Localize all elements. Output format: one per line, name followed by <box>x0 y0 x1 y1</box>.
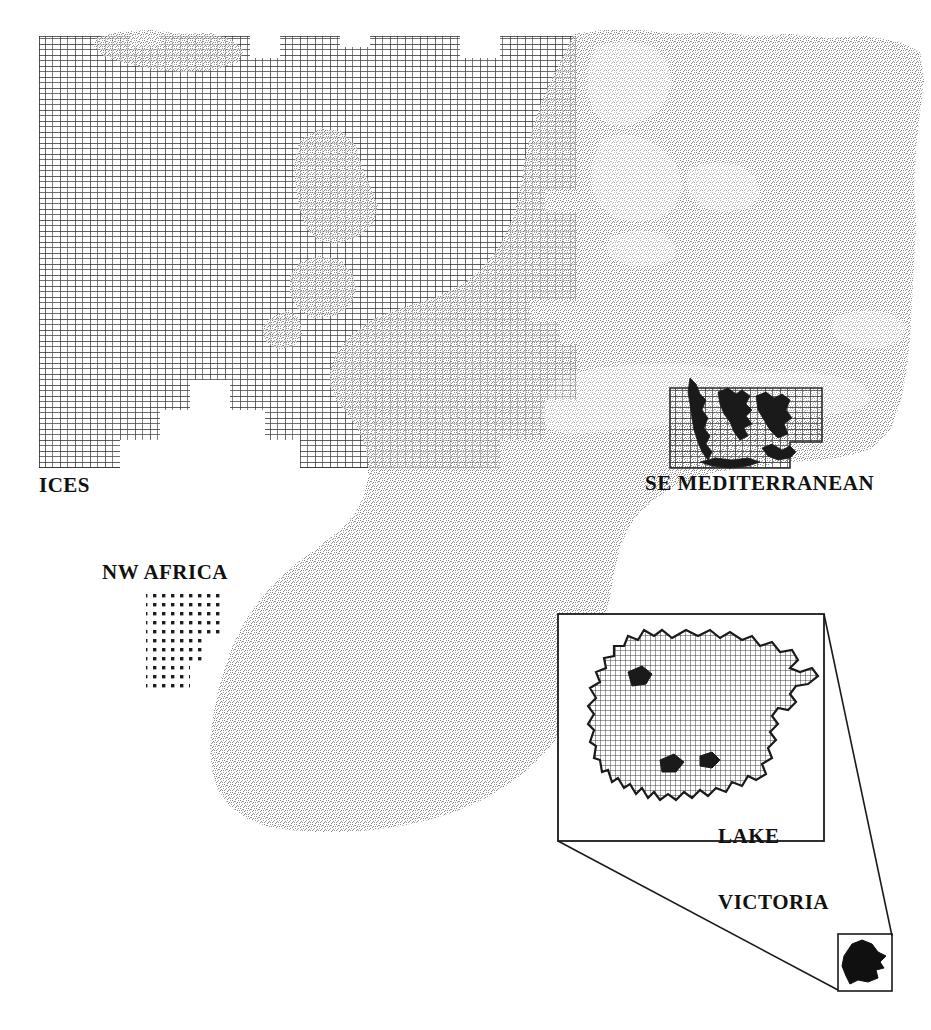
region-label-ices: ICES <box>39 474 90 496</box>
lake-victoria-locator <box>838 934 892 991</box>
region-label-se-mediterranean: SE MEDITERRANEAN <box>645 472 874 494</box>
nw-africa-grid-cells <box>146 590 224 688</box>
region-label-nw-africa: NW AFRICA <box>102 561 228 583</box>
survey-grid-map-figure: ICES SE MEDITERRANEAN NW AFRICA LAKE VIC… <box>0 0 931 1030</box>
lake-victoria-label-line2: VICTORIA <box>718 891 829 913</box>
connector-line-top <box>824 614 892 936</box>
locator-lake-shape <box>842 940 886 984</box>
nw-africa-grid-region <box>146 590 224 688</box>
region-label-lake-victoria: LAKE VICTORIA <box>718 781 829 957</box>
lake-victoria-label-line1: LAKE <box>718 825 829 847</box>
